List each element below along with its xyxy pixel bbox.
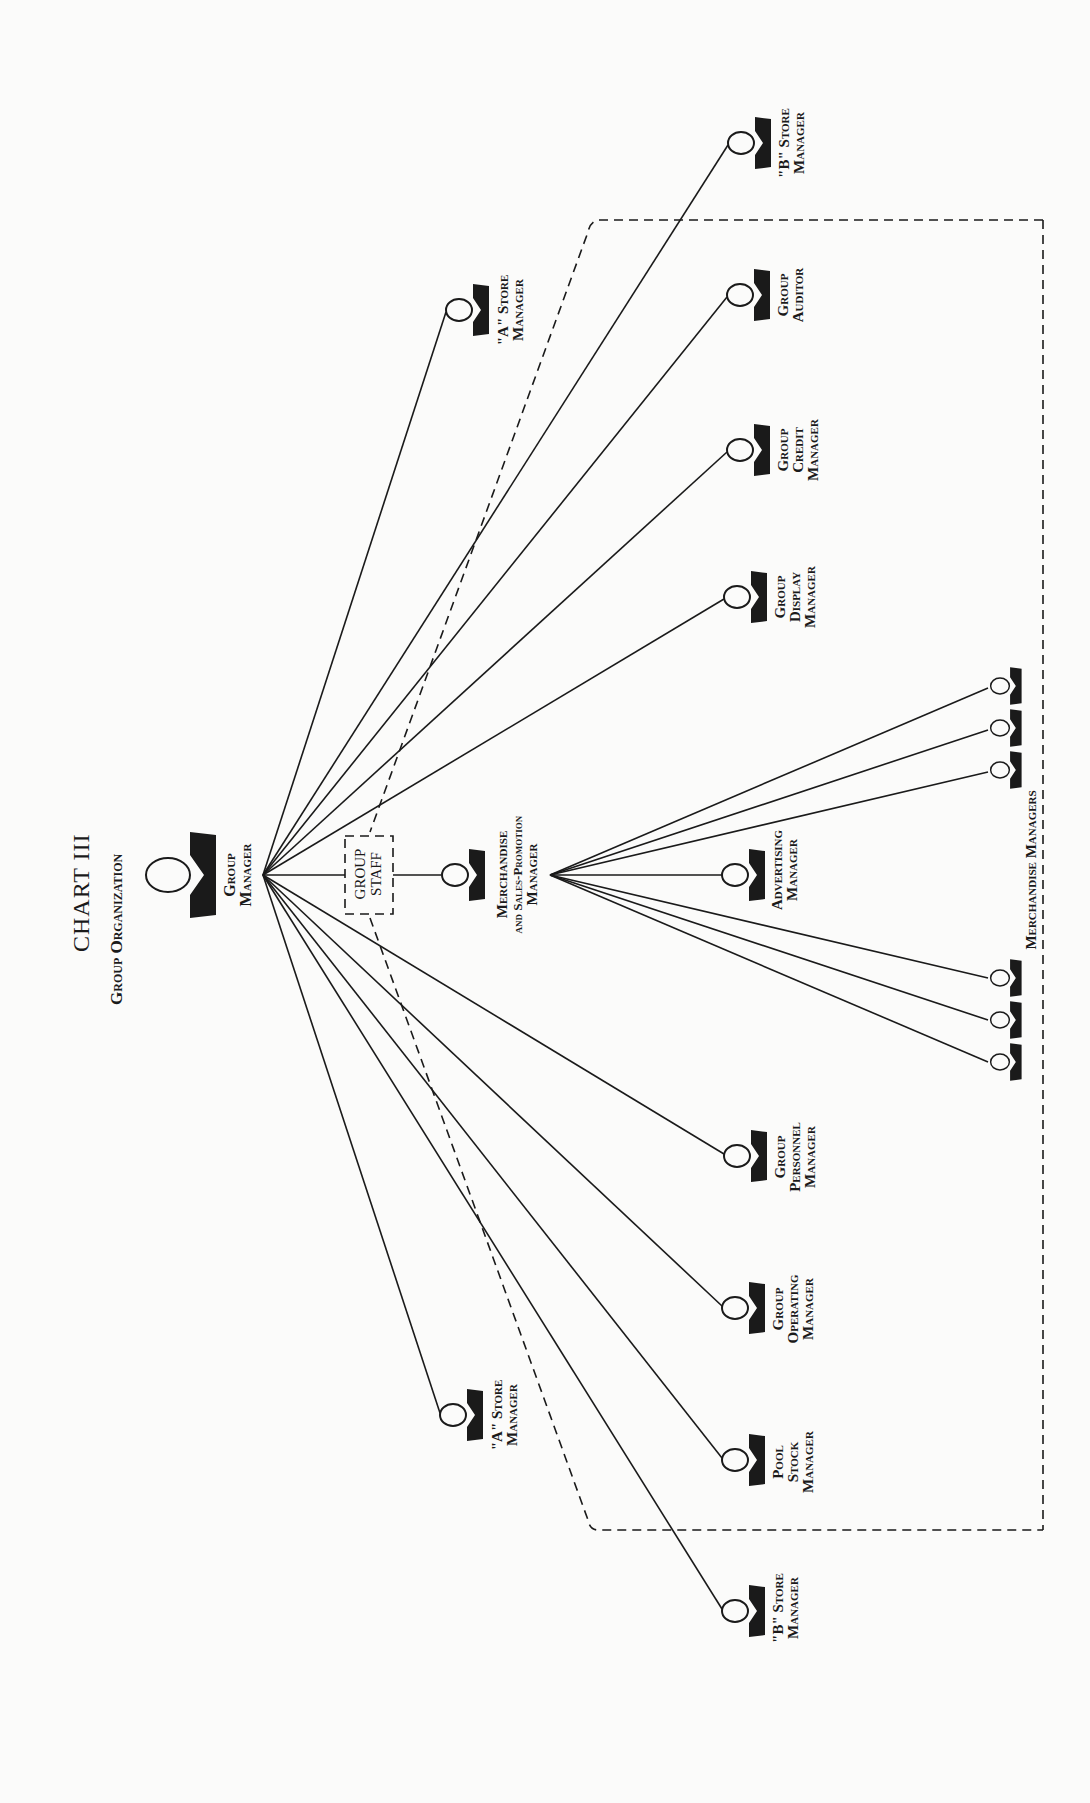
group-manager-icon <box>146 832 216 918</box>
merchandise-manager-icon <box>991 751 1022 788</box>
person-icons <box>146 117 1022 1637</box>
a-store-manager-top-label: "A" StoreManager <box>496 270 526 350</box>
merchandise-managers-label: Merchandise Managers <box>1024 780 1039 960</box>
merchandise-manager-icon <box>991 667 1022 704</box>
merchandise-manager-icon <box>991 1001 1022 1038</box>
pool-stock-manager-icon <box>722 1434 765 1486</box>
merchandise-manager-icon <box>991 709 1022 746</box>
org-chart-canvas <box>0 0 1090 1803</box>
pool-stock-manager-label: PoolStockManager <box>771 1424 816 1500</box>
b-store-manager-top-icon <box>728 117 771 169</box>
group-display-manager-icon <box>724 571 767 623</box>
merch-sales-promo-label: Merchandiseand Sales-PromotionManager <box>495 787 540 962</box>
group-credit-manager-label: GroupCreditManager <box>776 412 821 488</box>
advertising-manager-label: AdvertisingManager <box>770 825 800 915</box>
group-manager-label: GroupManager <box>222 830 254 920</box>
advertising-manager-icon <box>722 849 765 901</box>
group-personnel-manager-label: GroupPersonnelManager <box>773 1114 818 1200</box>
b-store-manager-top-label: "B" StoreManager <box>777 103 807 183</box>
a-store-manager-bottom-label: "A" StoreManager <box>490 1375 520 1455</box>
group-operating-manager-label: GroupOperatingManager <box>771 1266 816 1352</box>
a-store-manager-bottom-icon <box>440 1389 483 1441</box>
merchandise-manager-icon <box>991 1043 1022 1080</box>
group-auditor-icon <box>727 269 770 321</box>
merch-sales-promo-manager-icon <box>442 849 485 901</box>
group-personnel-manager-icon <box>724 1130 767 1182</box>
a-store-manager-top-icon <box>446 284 489 336</box>
merchandise-manager-icon <box>991 959 1022 996</box>
b-store-manager-bottom-label: "B" StoreManager <box>771 1568 801 1648</box>
b-store-manager-bottom-icon <box>722 1585 765 1637</box>
group-display-manager-label: GroupDisplayManager <box>773 559 818 635</box>
chart-subtitle: Group Organization <box>107 854 127 1005</box>
group-operating-manager-icon <box>722 1282 765 1334</box>
group-auditor-label: GroupAuditor <box>776 260 806 330</box>
chart-title: CHART III <box>68 834 95 952</box>
group-staff-label: GROUP STAFF <box>352 838 384 910</box>
group-credit-manager-icon <box>727 424 770 476</box>
